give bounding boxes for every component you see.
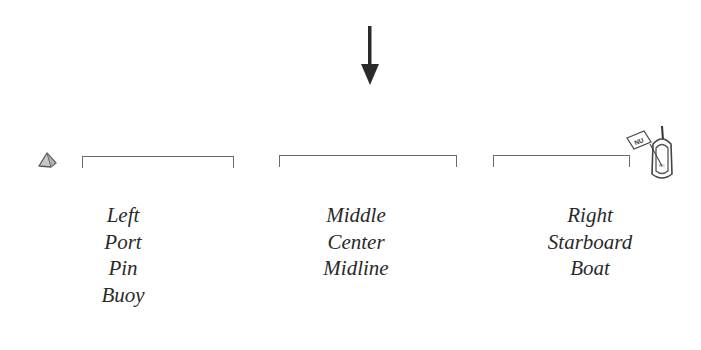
label-buoy: Buoy bbox=[73, 282, 173, 309]
committee-boat-marker: NU RC bbox=[622, 122, 682, 184]
label-left: Left bbox=[73, 202, 173, 229]
label-starboard: Starboard bbox=[530, 229, 650, 256]
start-line-segment-left bbox=[82, 156, 234, 168]
hull-text: RC bbox=[659, 163, 665, 168]
label-group-middle: Middle Center Midline bbox=[306, 202, 406, 282]
start-line-segment-middle bbox=[279, 155, 457, 167]
label-middle: Middle bbox=[306, 202, 406, 229]
label-boat: Boat bbox=[530, 255, 650, 282]
label-group-left: Left Port Pin Buoy bbox=[73, 202, 173, 308]
label-midline: Midline bbox=[306, 255, 406, 282]
buoy-icon bbox=[37, 150, 59, 170]
label-right: Right bbox=[530, 202, 650, 229]
wind-arrow bbox=[360, 26, 380, 86]
label-pin: Pin bbox=[73, 255, 173, 282]
down-arrow-icon bbox=[360, 26, 380, 86]
label-center: Center bbox=[306, 229, 406, 256]
start-line-segment-right bbox=[493, 155, 630, 167]
label-port: Port bbox=[73, 229, 173, 256]
buoy-marker bbox=[37, 150, 59, 170]
label-group-right: Right Starboard Boat bbox=[530, 202, 650, 282]
committee-boat-icon: NU RC bbox=[622, 122, 682, 184]
